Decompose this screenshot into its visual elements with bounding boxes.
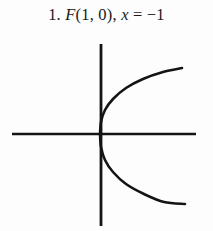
plot-background <box>0 30 213 231</box>
caption-focus-point: (1, 0) <box>76 5 113 24</box>
plot-area <box>0 30 213 231</box>
caption-item-number: 1. <box>48 5 61 24</box>
caption-directrix-value: −1 <box>147 5 165 24</box>
caption-focus-label: F <box>65 5 75 24</box>
caption-directrix-variable: x <box>121 5 129 24</box>
figure-caption: 1. F(1, 0), x = −1 <box>0 4 213 26</box>
caption-equals-sign: = <box>133 5 143 24</box>
figure-root: 1. F(1, 0), x = −1 <box>0 0 213 231</box>
parabola-plot <box>0 30 213 231</box>
